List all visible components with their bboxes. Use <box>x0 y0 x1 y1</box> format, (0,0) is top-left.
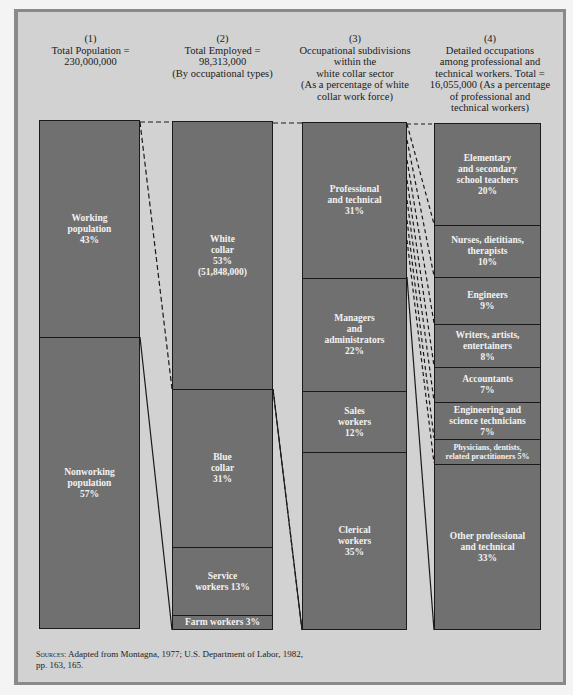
source-text: Adapted from Montagna, 1977; U.S. Depart… <box>36 649 303 670</box>
segment-label: Physicians, dentists, related practition… <box>446 443 530 462</box>
segment-label: Managers and administrators 22% <box>324 313 384 357</box>
segment-service-workers: Service workers 13% <box>173 547 272 615</box>
segment-label: Nonworking population 57% <box>64 467 115 500</box>
segment-label: Nurses, dietitians, therapists 10% <box>451 235 524 268</box>
segment-label: Engineering and science technicians 7% <box>449 405 525 438</box>
segment-label: Blue collar 31% <box>211 452 234 485</box>
segment-label: Accountants 7% <box>462 374 513 396</box>
segment-engineers: Engineers 9% <box>435 277 540 324</box>
segment-label: Farm workers 3% <box>185 617 260 628</box>
segment-other-professional: Other professional and technical 33% <box>435 464 540 629</box>
column-professional-detail: Elementary and secondary school teachers… <box>434 123 541 630</box>
segment-label: Other professional and technical 33% <box>450 531 525 564</box>
segment-blue-collar: Blue collar 31% <box>173 389 272 547</box>
segment-managers-administrators: Managers and administrators 22% <box>303 278 406 391</box>
segment-label: White collar 53% (51,848,000) <box>198 234 247 278</box>
segment-professional-technical: Professional and technical 31% <box>303 123 406 278</box>
source-note: Sources: Adapted from Montagna, 1977; U.… <box>36 649 316 671</box>
segment-working-population: Working population 43% <box>40 121 139 338</box>
segment-label: Working population 43% <box>68 213 112 246</box>
segment-label: Professional and technical 31% <box>327 184 381 217</box>
segment-physicians: Physicians, dentists, related practition… <box>435 439 540 464</box>
segment-white-collar: White collar 53% (51,848,000) <box>173 122 272 389</box>
segment-label: Elementary and secondary school teachers… <box>457 153 518 197</box>
column-total-employed: White collar 53% (51,848,000) Blue colla… <box>172 121 273 630</box>
segment-label: Sales workers 12% <box>338 406 371 439</box>
segment-nonworking-population: Nonworking population 57% <box>40 337 139 628</box>
segment-label: Clerical workers 35% <box>338 525 371 558</box>
segment-teachers: Elementary and secondary school teachers… <box>435 124 540 225</box>
segment-label: Writers, artists, entertainers 8% <box>456 330 520 363</box>
source-prefix: Sources: <box>36 650 66 659</box>
segment-engineering-technicians: Engineering and science technicians 7% <box>435 402 540 439</box>
segment-clerical-workers: Clerical workers 35% <box>303 452 406 629</box>
segment-label: Engineers 9% <box>467 290 508 312</box>
column-white-collar-subdivisions: Professional and technical 31% Managers … <box>302 122 407 630</box>
segment-label: Service workers 13% <box>195 571 250 593</box>
column-total-population: Working population 43% Nonworking popula… <box>39 120 140 629</box>
segment-writers-artists: Writers, artists, entertainers 8% <box>435 324 540 367</box>
segment-nurses: Nurses, dietitians, therapists 10% <box>435 225 540 277</box>
segment-farm-workers: Farm workers 3% <box>173 615 272 629</box>
segment-accountants: Accountants 7% <box>435 367 540 402</box>
segment-sales-workers: Sales workers 12% <box>303 391 406 452</box>
